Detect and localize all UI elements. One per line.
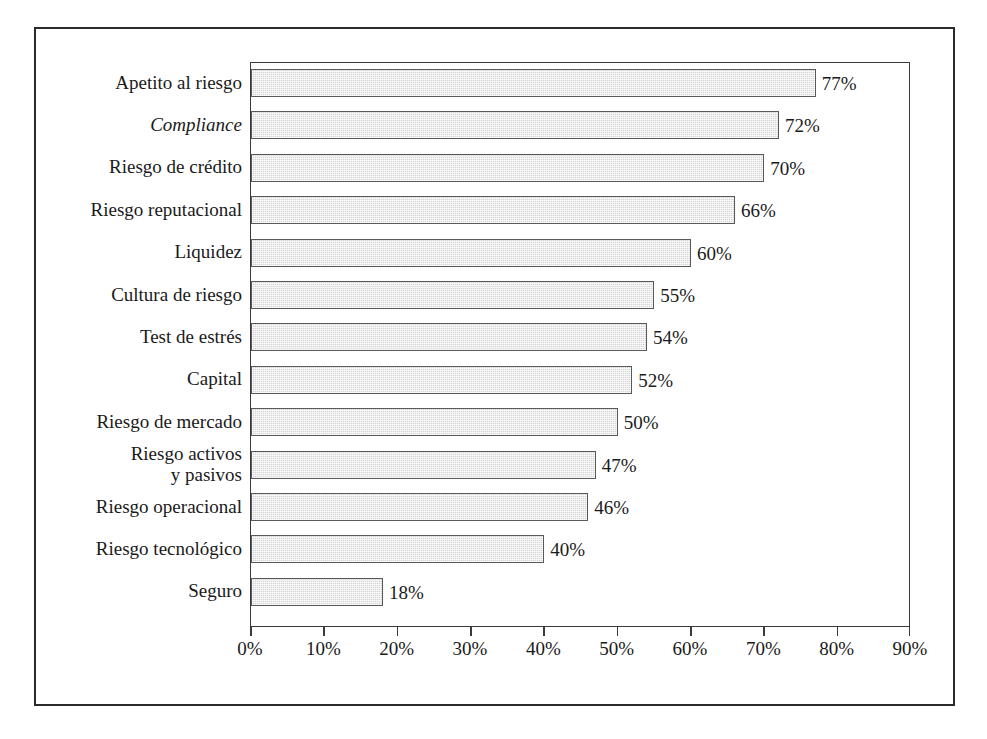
bar-row: 70%: [251, 154, 909, 182]
bar-row: 52%: [251, 366, 909, 394]
category-label: Compliance: [36, 114, 242, 135]
x-tick-label: 60%: [673, 639, 708, 658]
bar-value-label: 66%: [741, 201, 776, 220]
bar: [251, 69, 816, 97]
bar-row: 47%: [251, 451, 909, 479]
x-tick-label: 10%: [306, 639, 341, 658]
bar: [251, 111, 779, 139]
bar-value-label: 50%: [624, 413, 659, 432]
bar-value-label: 60%: [697, 243, 732, 262]
bar-row: 72%: [251, 111, 909, 139]
x-tick-label: 50%: [599, 639, 634, 658]
x-tick-mark: [909, 627, 911, 636]
x-tick-label: 80%: [819, 639, 854, 658]
category-label: Test de estrés: [36, 326, 242, 347]
x-tick-label: 40%: [526, 639, 561, 658]
bar: [251, 408, 618, 436]
bar: [251, 323, 647, 351]
bar-row: 18%: [251, 578, 909, 606]
plot-area: 77%72%70%66%60%55%54%52%50%47%46%40%18%: [250, 62, 910, 627]
bar-row: 54%: [251, 323, 909, 351]
bar-value-label: 47%: [602, 455, 637, 474]
bar-row: 60%: [251, 239, 909, 267]
category-label: Riesgo de crédito: [36, 156, 242, 177]
bar: [251, 451, 596, 479]
bar: [251, 578, 383, 606]
bar: [251, 281, 654, 309]
bar: [251, 154, 764, 182]
category-label: Riesgo reputacional: [36, 199, 242, 220]
x-tick-mark: [250, 627, 252, 636]
category-label: Capital: [36, 368, 242, 389]
bar: [251, 535, 544, 563]
category-label: Liquidez: [36, 241, 242, 262]
x-tick-label: 0%: [237, 639, 262, 658]
x-tick-label: 20%: [379, 639, 414, 658]
category-label: Cultura de riesgo: [36, 284, 242, 305]
bar-value-label: 18%: [389, 582, 424, 601]
bar: [251, 366, 632, 394]
x-tick-label: 30%: [453, 639, 488, 658]
x-tick-mark: [690, 627, 692, 636]
bar-row: 77%: [251, 69, 909, 97]
bar-rows: 77%72%70%66%60%55%54%52%50%47%46%40%18%: [251, 63, 909, 626]
figure-frame: Apetito al riesgoComplianceRiesgo de cré…: [34, 27, 955, 706]
category-label: Seguro: [36, 580, 242, 601]
x-tick-mark: [323, 627, 325, 636]
category-axis-labels: Apetito al riesgoComplianceRiesgo de cré…: [36, 62, 242, 627]
category-label: Riesgo operacional: [36, 496, 242, 517]
x-tick-mark: [763, 627, 765, 636]
bar-value-label: 52%: [638, 370, 673, 389]
bar-value-label: 40%: [550, 540, 585, 559]
bar-row: 50%: [251, 408, 909, 436]
x-axis: 0%10%20%30%40%50%60%70%80%90%: [250, 627, 910, 687]
bar-value-label: 46%: [594, 498, 629, 517]
x-tick-mark: [470, 627, 472, 636]
category-label: Riesgo tecnológico: [36, 538, 242, 559]
bar-value-label: 72%: [785, 116, 820, 135]
x-tick-mark: [397, 627, 399, 636]
bar: [251, 239, 691, 267]
bar: [251, 196, 735, 224]
x-tick-mark: [837, 627, 839, 636]
bar-row: 66%: [251, 196, 909, 224]
x-tick-mark: [543, 627, 545, 636]
bar-value-label: 77%: [822, 74, 857, 93]
bar: [251, 493, 588, 521]
bar-value-label: 54%: [653, 328, 688, 347]
bar-row: 40%: [251, 535, 909, 563]
bar-row: 55%: [251, 281, 909, 309]
category-label: Riesgo de mercado: [36, 411, 242, 432]
x-tick-label: 90%: [893, 639, 928, 658]
bar-row: 46%: [251, 493, 909, 521]
x-tick-mark: [617, 627, 619, 636]
bar-value-label: 70%: [770, 158, 805, 177]
category-label: Apetito al riesgo: [36, 72, 242, 93]
figure-caption: [92, 726, 892, 739]
x-tick-label: 70%: [746, 639, 781, 658]
category-label: Riesgo activos y pasivos: [36, 443, 242, 485]
bar-value-label: 55%: [660, 286, 695, 305]
